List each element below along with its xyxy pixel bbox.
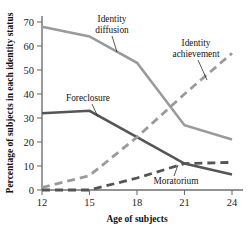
series-line-moratorium [42, 162, 232, 190]
series-line-foreclosure [42, 111, 232, 175]
x-tick-label-21: 21 [179, 197, 190, 208]
x-tick-label-15: 15 [84, 197, 95, 208]
y-tick-label-10: 10 [24, 161, 35, 172]
line-chart: 70 60 50 40 30 20 10 0 12 15 18 21 24 Ag… [0, 0, 252, 228]
x-tick-label-24: 24 [227, 197, 238, 208]
y-tick-label-70: 70 [24, 17, 35, 28]
chart-figure: 70 60 50 40 30 20 10 0 12 15 18 21 24 Ag… [0, 0, 252, 228]
x-tick-label-12: 12 [37, 197, 48, 208]
y-axis-title: Percentage of subjects in each identity … [5, 12, 15, 193]
x-tick-label-18: 18 [132, 197, 143, 208]
y-axis-ticks [37, 22, 42, 190]
label-identity-diffusion-line2: diffusion [95, 25, 129, 35]
y-tick-label-50: 50 [24, 65, 35, 76]
label-foreclosure: Foreclosure [66, 93, 110, 103]
y-tick-label-20: 20 [24, 137, 35, 148]
label-identity-achievement-line2: achievement [173, 49, 220, 59]
y-tick-label-30: 30 [24, 113, 35, 124]
label-identity-achievement-line1: Identity [182, 38, 211, 48]
y-tick-label-40: 40 [24, 89, 35, 100]
x-axis-title: Age of subjects [106, 214, 168, 224]
y-tick-label-60: 60 [24, 41, 35, 52]
label-identity-diffusion-line1: Identity [98, 14, 127, 24]
label-moratorium: Moratorium [154, 176, 200, 186]
y-tick-label-0: 0 [29, 185, 34, 196]
